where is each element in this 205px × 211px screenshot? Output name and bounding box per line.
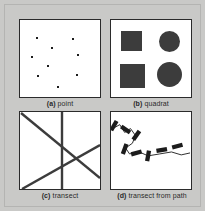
path-transect-group xyxy=(111,112,191,189)
caption-key-d: (d) xyxy=(117,192,126,199)
caption-panel-transect: (c) transect xyxy=(17,191,103,200)
sampling-methods-figure: (a) point (b) quadrat (c) transect (d) t… xyxy=(0,0,205,211)
caption-key-a: (a) xyxy=(47,100,56,107)
sample-point xyxy=(36,37,38,39)
caption-label-d: transect from path xyxy=(129,192,187,199)
caption-panel-quadrat: (b) quadrat xyxy=(108,99,194,108)
path-transect-marker xyxy=(121,143,129,155)
quadrat-square xyxy=(121,31,142,51)
panel-transect xyxy=(19,111,101,190)
caption-key-b: (b) xyxy=(133,100,142,107)
path-transect-marker xyxy=(131,149,142,156)
caption-panel-transect-from-path: (d) transect from path xyxy=(106,191,198,200)
panel-point xyxy=(19,19,101,98)
path-transect-marker xyxy=(172,143,183,150)
caption-label-c: transect xyxy=(53,192,79,199)
quadrat-square xyxy=(120,64,145,88)
sample-point xyxy=(47,65,49,67)
caption-label-b: quadrat xyxy=(144,100,168,107)
panel-transect-from-path xyxy=(110,111,192,190)
sample-point xyxy=(76,74,78,76)
path-transect-marker xyxy=(145,150,151,161)
sample-point xyxy=(77,54,79,56)
path-transect-marker xyxy=(156,147,167,153)
caption-label-a: point xyxy=(58,100,74,107)
sample-point xyxy=(51,47,53,49)
sample-point xyxy=(37,75,39,77)
sample-point xyxy=(31,56,33,58)
panel-quadrat xyxy=(110,19,192,98)
quadrat-circle xyxy=(157,62,182,87)
sample-point xyxy=(72,38,74,40)
quadrat-circle xyxy=(159,31,180,52)
transect-lines-group xyxy=(20,112,100,189)
caption-key-c: (c) xyxy=(42,192,51,199)
sample-point xyxy=(57,86,59,88)
caption-panel-point: (a) point xyxy=(17,99,103,108)
